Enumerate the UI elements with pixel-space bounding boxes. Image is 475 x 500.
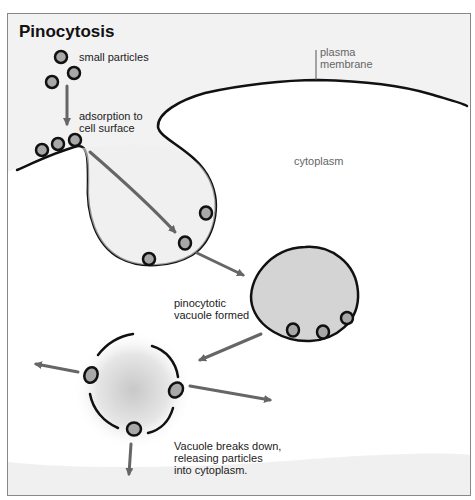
- label-breaks-down: Vacuole breaks down, releasing particles…: [174, 440, 281, 476]
- particle: [36, 144, 48, 156]
- particle: [68, 67, 80, 79]
- particle: [52, 138, 64, 150]
- label-cytoplasm: cytoplasm: [294, 155, 344, 167]
- label-plasma-membrane: plasma membrane: [320, 46, 373, 70]
- label-small-particles: small particles: [79, 51, 149, 63]
- particle: [143, 253, 155, 265]
- particle: [287, 324, 299, 337]
- particle: [46, 76, 58, 88]
- particle: [200, 207, 212, 220]
- pinocytosis-diagram: [0, 0, 475, 500]
- diagram-title: Pinocytosis: [19, 22, 114, 42]
- particle: [55, 51, 67, 63]
- label-adsorption: adsorption to cell surface: [79, 110, 143, 134]
- particle: [127, 423, 141, 436]
- label-vacuole-formed: pinocytotic vacuole formed: [174, 297, 249, 321]
- particle: [317, 326, 329, 339]
- particle: [69, 134, 81, 146]
- particle: [179, 237, 191, 250]
- arrow-release-down: [129, 444, 131, 474]
